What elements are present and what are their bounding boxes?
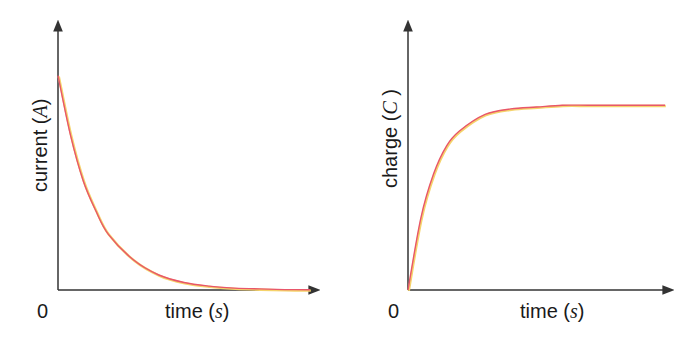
y-axis-unit-close: ) bbox=[29, 99, 51, 106]
y-axis-label: current (A) bbox=[29, 99, 51, 192]
x-axis-unit-close: ) bbox=[223, 300, 230, 322]
x-axis-label-text: time bbox=[520, 300, 558, 322]
x-axis-label-text: time bbox=[165, 300, 203, 322]
y-axis-label: charge (C ) bbox=[379, 89, 401, 188]
y-axis-unit: A bbox=[29, 105, 51, 120]
x-axis-unit: s bbox=[570, 300, 578, 322]
current-decay-curve bbox=[58, 76, 310, 290]
charge-rise-curve bbox=[408, 105, 665, 290]
origin-label: 0 bbox=[37, 300, 48, 322]
x-axis-unit: s bbox=[215, 300, 223, 322]
origin-label: 0 bbox=[388, 300, 399, 322]
chart-figure: 0 time (s) current (A) 0 time (s) charge… bbox=[0, 0, 693, 346]
x-axis-label: time (s) bbox=[520, 300, 585, 322]
charge-chart: 0 time (s) charge (C ) bbox=[379, 22, 672, 322]
y-axis-unit: C bbox=[379, 101, 401, 115]
y-axis-label-text: charge bbox=[379, 127, 401, 188]
x-axis-label: time (s) bbox=[165, 300, 230, 322]
charge-curve-glow bbox=[409, 106, 666, 291]
current-curve-glow bbox=[59, 76, 311, 290]
x-axis-unit-close: ) bbox=[578, 300, 585, 322]
y-axis-label-text: current bbox=[29, 129, 51, 192]
current-chart: 0 time (s) current (A) bbox=[29, 22, 318, 322]
y-axis-unit-close: ) bbox=[379, 89, 401, 101]
